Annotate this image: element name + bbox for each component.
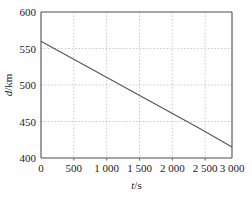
y-tick-label-500: 500 [20, 79, 37, 91]
x-axis-title-unit: /s [134, 179, 141, 191]
x-tick-label-1000: 1 000 [94, 162, 119, 174]
x-axis-title: t/s [131, 179, 141, 191]
x-tick-label-0: 0 [38, 162, 44, 174]
y-axis-title: d/km [2, 73, 14, 96]
x-tick-label-3000: 3 000 [220, 162, 245, 174]
x-tick-label-2000: 2 000 [160, 162, 185, 174]
x-tick-label-500: 500 [66, 162, 83, 174]
svg-text:d/km: d/km [2, 73, 14, 96]
x-tick-label-2500: 2 500 [193, 162, 218, 174]
y-tick-label-400: 400 [20, 152, 37, 164]
svg-text:t/s: t/s [131, 179, 141, 191]
y-tick-label-450: 450 [20, 116, 37, 128]
chart-figure: 600 550 500 450 400 0 500 1 000 1 500 2 … [0, 0, 252, 198]
y-tick-label-550: 550 [20, 43, 37, 55]
y-tick-label-600: 600 [20, 6, 37, 18]
x-tick-labels: 0 500 1 000 1 500 2 000 2 500 3 000 [38, 162, 245, 174]
y-axis-title-unit: /km [2, 73, 14, 91]
line-chart: 600 550 500 450 400 0 500 1 000 1 500 2 … [0, 0, 252, 198]
x-tick-label-1500: 1 500 [127, 162, 152, 174]
